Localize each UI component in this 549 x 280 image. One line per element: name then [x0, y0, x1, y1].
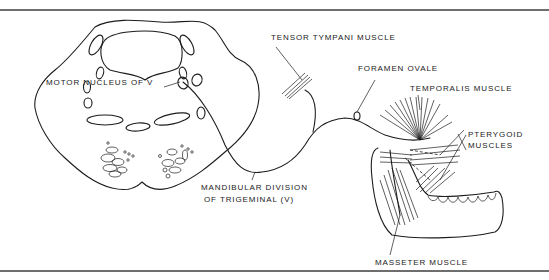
teeth: [428, 193, 496, 202]
pontine-nuclei-left: [101, 142, 134, 177]
foramen-ovale-leader: [357, 80, 375, 112]
mandibular-leader: [252, 172, 255, 180]
label-masseter: MASSETER MUSCLE: [375, 258, 468, 268]
label-tensor-tympani: TENSOR TYMPANI MUSCLE: [271, 33, 396, 43]
mandibular-nerve-path: [183, 82, 430, 173]
label-pterygoid-line1: PTERYGOID: [468, 130, 523, 140]
foramen-ovale: [354, 112, 360, 120]
label-motor-nucleus: MOTOR NUCLEUS OF V: [46, 78, 153, 88]
label-foramen-ovale: FORAMEN OVALE: [358, 64, 438, 74]
masseter-muscle: [380, 150, 418, 255]
tensor-tympani-branch: [305, 90, 315, 132]
motor-nucleus-leader: [164, 82, 180, 87]
temporalis-muscle: [380, 95, 452, 140]
label-mandibular-line1: MANDIBULAR DIVISION: [201, 183, 308, 193]
label-temporalis: TEMPORALIS MUSCLE: [410, 84, 512, 94]
pontine-nuclei-right: [159, 145, 194, 178]
label-pterygoid-line2: MUSCLES: [468, 141, 513, 151]
brainstem-cross-section: [35, 20, 259, 189]
label-mandibular-line2: OF TRIGEMINAL (V): [204, 195, 294, 205]
